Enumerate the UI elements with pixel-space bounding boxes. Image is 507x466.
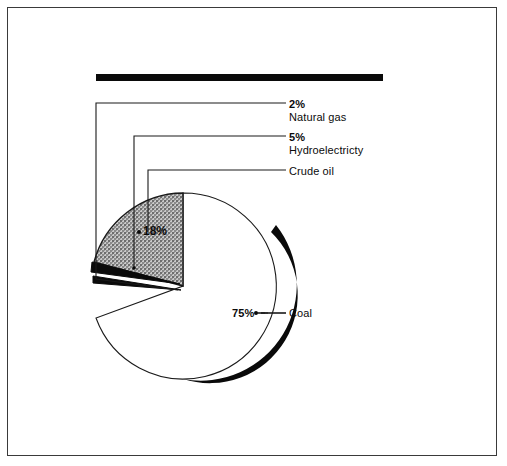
- figure-canvas: 2% Natural gas 5% Hydroelectricty Crude …: [0, 0, 507, 466]
- crude-oil-percent-on-slice: 18%: [143, 225, 167, 239]
- hydroelectricity-percent: 5%: [289, 131, 363, 144]
- hydroelectricity-label: Hydroelectricty: [289, 144, 363, 157]
- crude-oil-label: Crude oil: [289, 165, 334, 178]
- coal-percent: 75%: [232, 307, 254, 320]
- leader-dot-coal: [254, 311, 258, 315]
- pie-chart-graphic: [0, 0, 507, 466]
- coal-label: Coal: [289, 307, 312, 320]
- callout-hydroelectricity: 5% Hydroelectricty: [289, 131, 363, 156]
- natural-gas-percent: 2%: [289, 98, 346, 111]
- leader-dot-crude-oil: [137, 230, 141, 234]
- callout-natural-gas: 2% Natural gas: [289, 98, 346, 123]
- natural-gas-label: Natural gas: [289, 111, 346, 124]
- leader-dot-hydroelectricity: [132, 266, 136, 270]
